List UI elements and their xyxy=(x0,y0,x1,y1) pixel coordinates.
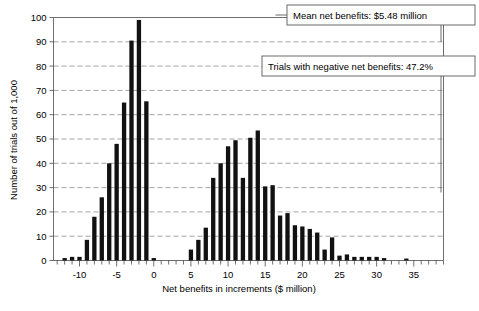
x-tick-label: 15 xyxy=(260,269,271,280)
x-tick-label: 5 xyxy=(188,269,193,280)
x-tick-label: 35 xyxy=(408,269,419,280)
x-tick-label: 20 xyxy=(297,269,308,280)
histogram-bar xyxy=(285,213,289,260)
histogram-bar xyxy=(70,257,74,261)
y-tick-label: 60 xyxy=(36,109,47,120)
y-tick-label: 0 xyxy=(41,255,46,266)
x-tick-label: -5 xyxy=(112,269,120,280)
histogram-bar xyxy=(330,237,334,260)
histogram-bar xyxy=(62,258,66,260)
histogram-bar xyxy=(107,163,111,260)
histogram-bar xyxy=(345,254,349,260)
x-tick-label: 10 xyxy=(223,269,234,280)
histogram-bar xyxy=(122,103,126,261)
histogram-bar xyxy=(114,144,118,261)
histogram-bar xyxy=(218,163,222,260)
histogram-bar xyxy=(300,226,304,260)
histogram-bar xyxy=(248,138,252,261)
y-tick-label: 30 xyxy=(36,182,47,193)
histogram-bar xyxy=(278,216,282,261)
histogram-bar xyxy=(129,41,133,261)
histogram-bar xyxy=(152,258,156,260)
x-tick-label: -10 xyxy=(73,269,87,280)
histogram-bar xyxy=(270,185,274,260)
y-tick-label: 10 xyxy=(36,231,47,242)
histogram-bar xyxy=(196,240,200,261)
histogram-bar xyxy=(256,131,260,261)
histogram-bar xyxy=(204,228,208,261)
histogram-bar xyxy=(77,257,81,261)
histogram-bar xyxy=(211,178,215,261)
y-tick-label: 40 xyxy=(36,158,47,169)
y-tick-label: 50 xyxy=(36,133,47,144)
histogram-bar xyxy=(189,250,193,261)
histogram-bar xyxy=(233,140,237,260)
mean-callout-label: Mean net benefits: $5.48 million xyxy=(293,10,427,21)
histogram-bar xyxy=(226,146,230,260)
histogram-bar xyxy=(360,257,364,261)
histogram-bar xyxy=(263,186,267,260)
histogram-bar xyxy=(367,257,371,261)
histogram-bar xyxy=(337,256,341,261)
y-tick-label: 80 xyxy=(36,61,47,72)
histogram-bar xyxy=(85,240,89,261)
x-tick-label: 0 xyxy=(151,269,156,280)
histogram-bar xyxy=(352,257,356,261)
histogram-bar xyxy=(92,217,96,261)
x-tick-label: 25 xyxy=(334,269,345,280)
histogram-bar xyxy=(382,258,386,260)
histogram-bar xyxy=(100,197,104,260)
histogram-bar xyxy=(137,20,141,261)
x-axis-title: Net benefits in increments ($ million) xyxy=(162,283,316,294)
histogram-bar xyxy=(404,259,408,261)
y-tick-label: 20 xyxy=(36,206,47,217)
histogram-bar xyxy=(322,250,326,261)
y-tick-label: 70 xyxy=(36,85,47,96)
negative-callout-label: Trials with negative net benefits: 47.2% xyxy=(268,61,433,72)
histogram-bar xyxy=(308,229,312,261)
histogram-bar xyxy=(241,178,245,261)
y-tick-label: 100 xyxy=(31,12,47,23)
chart-canvas: 0102030405060708090100 -10-5051015202530… xyxy=(0,0,479,311)
histogram-bar xyxy=(293,225,297,260)
x-tick-label: 30 xyxy=(371,269,382,280)
histogram-bar xyxy=(144,101,148,260)
histogram-bar xyxy=(374,257,378,261)
y-axis-title: Number of trials out of 1,000 xyxy=(8,80,19,200)
histogram-bar xyxy=(315,233,319,261)
y-tick-label: 90 xyxy=(36,36,47,47)
histogram-figure: 0102030405060708090100 -10-5051015202530… xyxy=(0,0,479,311)
